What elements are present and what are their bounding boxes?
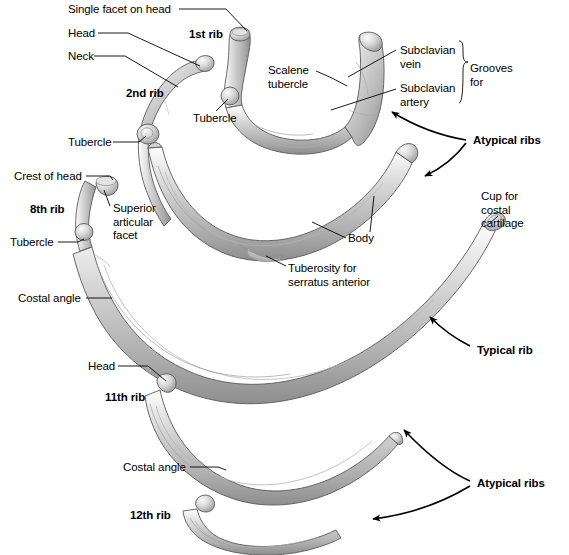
- label-grooves-for: Grooves for: [470, 62, 513, 89]
- label-12th-rib: 12th rib: [130, 509, 171, 523]
- label-tubercle-2nd-rib: Tubercle: [68, 136, 112, 150]
- label-cup-for-costal-cartilage: Cup for costal cartilage: [481, 190, 524, 231]
- grooves-bracket: [459, 41, 468, 103]
- label-typical-rib: Typical rib: [477, 344, 533, 358]
- label-neck: Neck: [68, 50, 94, 64]
- label-2nd-rib: 2nd rib: [126, 87, 164, 101]
- bone-8th-rib-upper-arc: [148, 143, 418, 262]
- label-head-2nd-rib: Head: [68, 27, 95, 41]
- label-tuberosity-serratus-anterior: Tuberosity for serratus anterior: [288, 262, 370, 289]
- label-tubercle-1st-rib: Tubercle: [193, 112, 237, 126]
- label-body: Body: [348, 232, 374, 246]
- label-scalene-tubercle: Scalene tubercle: [268, 64, 309, 91]
- figure-canvas: Single facet on head Head Neck 1st rib 2…: [0, 0, 569, 555]
- label-costal-angle-11th-rib: Costal angle: [123, 461, 186, 475]
- label-atypical-ribs-top: Atypical ribs: [473, 134, 541, 148]
- label-8th-rib: 8th rib: [30, 203, 64, 217]
- label-costal-angle-8th-rib: Costal angle: [18, 292, 81, 306]
- label-crest-of-head: Crest of head: [14, 170, 82, 184]
- label-subclavian-artery: Subclavian artery: [400, 82, 455, 109]
- label-11th-rib: 11th rib: [105, 391, 145, 405]
- label-tubercle-8th-rib: Tubercle: [10, 236, 54, 250]
- label-single-facet-on-head: Single facet on head: [68, 3, 171, 17]
- label-head-11th-rib: Head: [88, 360, 115, 374]
- label-atypical-ribs-bottom: Atypical ribs: [477, 477, 545, 491]
- label-superior-articular-facet: Superior articular facet: [113, 202, 156, 243]
- label-1st-rib: 1st rib: [189, 28, 223, 42]
- label-subclavian-vein: Subclavian vein: [400, 44, 455, 71]
